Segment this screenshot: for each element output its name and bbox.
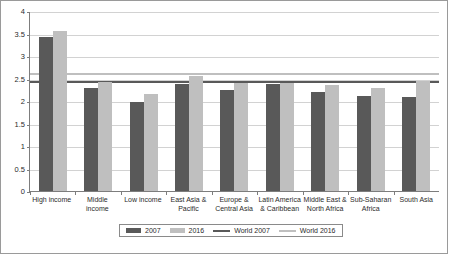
bar-group [394, 12, 439, 191]
bar-group [121, 12, 166, 191]
bar-2007 [130, 102, 144, 191]
legend-label: 2016 [189, 227, 205, 234]
legend-line-icon [279, 230, 296, 232]
x-axis-label: High income [29, 196, 75, 213]
bar-2007 [311, 92, 325, 191]
legend-item[interactable]: 2016 [170, 227, 205, 234]
legend-item[interactable]: World 2016 [279, 227, 336, 234]
bar-2007 [220, 90, 234, 191]
bar-2016 [98, 82, 112, 191]
bar-group [257, 12, 302, 191]
bar-2016 [280, 83, 294, 191]
bar-2007 [402, 97, 416, 191]
bar-group [30, 12, 75, 191]
chart-figure: 00.511.522.533.54 High incomeMiddle inco… [0, 0, 448, 254]
x-axis-tick [394, 191, 395, 195]
legend-label: 2007 [145, 227, 161, 234]
bar-2016 [144, 94, 158, 191]
bar-2007 [357, 96, 371, 191]
legend-swatch-icon [170, 228, 185, 233]
legend-swatch-icon [126, 228, 141, 233]
y-axis-tick-label: 1.5 [15, 121, 25, 129]
bar-group [348, 12, 393, 191]
x-axis-label: South Asia [394, 196, 440, 213]
x-axis-label: Low income [120, 196, 166, 213]
y-axis-tick-label: 3 [21, 53, 25, 61]
x-axis-tick [75, 191, 76, 195]
x-axis-label: Sub-Saharan Africa [348, 196, 394, 213]
bar-2007 [84, 88, 98, 191]
legend-item[interactable]: 2007 [126, 227, 161, 234]
bar-2016 [325, 85, 339, 191]
bar-2016 [53, 31, 67, 191]
legend-item[interactable]: World 2007 [213, 227, 270, 234]
plot-area: 00.511.522.533.54 [29, 12, 439, 192]
x-axis-label: Middle income [75, 196, 121, 213]
x-axis-tick [257, 191, 258, 195]
bar-2016 [234, 83, 248, 191]
x-axis-label: Europe & Central Asia [211, 196, 257, 213]
bar-group [212, 12, 257, 191]
x-axis-tick [348, 191, 349, 195]
y-axis-tick-label: 3.5 [15, 31, 25, 39]
y-axis-tick-label: 1 [21, 143, 25, 151]
bar-groups [30, 12, 439, 191]
bar-2016 [371, 88, 385, 191]
bar-2007 [175, 84, 189, 191]
x-axis-tick [303, 191, 304, 195]
y-axis-tick-label: 0 [21, 188, 25, 196]
legend-label: World 2016 [300, 227, 336, 234]
x-axis-tick [121, 191, 122, 195]
legend-line-icon [213, 230, 230, 232]
x-axis-tick [30, 191, 31, 195]
bar-2016 [416, 81, 430, 191]
x-axis-labels: High incomeMiddle incomeLow incomeEast A… [29, 196, 439, 213]
x-axis-label: Latin America & Caribbean [257, 196, 303, 213]
y-axis-tick-label: 0.5 [15, 166, 25, 174]
x-axis-tick [166, 191, 167, 195]
x-axis-label: Middle East & North Africa [302, 196, 348, 213]
x-axis-label: East Asia & Pacific [166, 196, 212, 213]
legend-label: World 2007 [234, 227, 270, 234]
bar-2007 [39, 37, 53, 191]
bar-group [303, 12, 348, 191]
y-axis-tick-label: 2.5 [15, 76, 25, 84]
chart-legend: 20072016World 2007World 2016 [119, 224, 343, 237]
y-axis-tick-label: 4 [21, 8, 25, 16]
bar-group [166, 12, 211, 191]
bar-group [75, 12, 120, 191]
bar-2016 [189, 76, 203, 191]
y-axis-tick-label: 2 [21, 98, 25, 106]
bar-2007 [266, 84, 280, 191]
x-axis-tick [212, 191, 213, 195]
